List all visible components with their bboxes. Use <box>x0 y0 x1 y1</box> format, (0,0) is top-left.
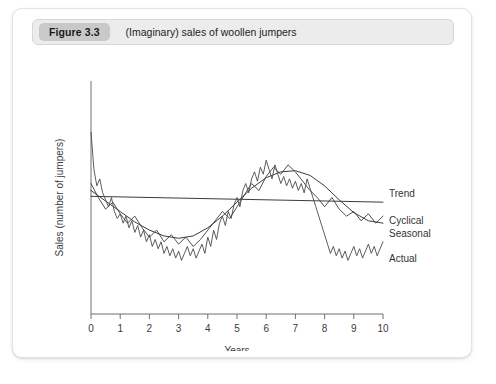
chart-legend: TrendCyclicalSeasonalActual <box>389 188 431 264</box>
figure-number-badge: Figure 3.3 <box>39 23 110 42</box>
x-tick-label: 7 <box>293 323 299 334</box>
chart-area: 012345678910 TrendCyclicalSeasonalActual… <box>32 51 454 351</box>
figure-header: Figure 3.3 (Imaginary) sales of woollen … <box>32 19 454 45</box>
x-tick-label: 8 <box>322 323 328 334</box>
x-tick-label: 9 <box>351 323 357 334</box>
x-tick-label: 3 <box>176 323 182 334</box>
figure-panel: Figure 3.3 (Imaginary) sales of woollen … <box>12 8 472 358</box>
series-seasonal-line <box>91 165 383 247</box>
x-tick-label: 2 <box>147 323 153 334</box>
legend-label-cyclical: Cyclical <box>389 215 423 226</box>
axes: 012345678910 <box>88 81 389 334</box>
x-tick-label: 0 <box>88 323 94 334</box>
legend-label-seasonal: Seasonal <box>389 228 431 239</box>
x-tick-label: 5 <box>234 323 240 334</box>
data-series <box>91 132 383 260</box>
legend-label-trend: Trend <box>389 188 415 199</box>
sales-line-chart: 012345678910 TrendCyclicalSeasonalActual… <box>32 51 454 351</box>
x-tick-label: 10 <box>377 323 389 334</box>
x-tick-label: 6 <box>263 323 269 334</box>
series-actual-line <box>91 132 383 260</box>
y-axis-title: Sales (number of jumpers) <box>54 139 65 257</box>
legend-label-actual: Actual <box>389 253 417 264</box>
x-tick-label: 4 <box>205 323 211 334</box>
x-tick-label: 1 <box>117 323 123 334</box>
x-axis-title: Years <box>224 345 249 351</box>
figure-caption: (Imaginary) sales of woollen jumpers <box>126 26 297 38</box>
series-cyclical-line <box>91 171 383 239</box>
